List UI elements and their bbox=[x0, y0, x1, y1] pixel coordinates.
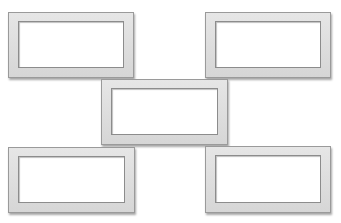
frame-inner-top-right bbox=[215, 21, 321, 68]
frame-bottom-left bbox=[8, 147, 135, 213]
frame-inner-center bbox=[111, 88, 218, 135]
frame-bottom-right bbox=[205, 146, 331, 213]
frame-inner-bottom-left bbox=[18, 156, 125, 203]
frame-top-left bbox=[8, 12, 134, 78]
frame-inner-top-left bbox=[18, 21, 124, 68]
frame-inner-bottom-right bbox=[215, 155, 321, 203]
frame-top-right bbox=[205, 12, 331, 78]
frame-center bbox=[101, 79, 228, 145]
